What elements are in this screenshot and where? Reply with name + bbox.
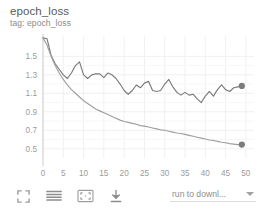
data-table-icon[interactable]: [44, 186, 64, 206]
y-tick-label: 0.9: [26, 108, 38, 117]
fullscreen-icon[interactable]: [13, 186, 33, 206]
line-chart-svg[interactable]: 0.50.70.91.11.31.5 05101520253035404550: [0, 30, 264, 182]
x-tick-label: 5: [61, 169, 66, 178]
x-tick-label: 20: [120, 169, 130, 178]
scalar-chart-card: epoch_loss tag: epoch_loss 0.50.70.91.11…: [0, 0, 264, 220]
x-tick-label: 10: [79, 169, 89, 178]
y-tick-label: 1.5: [26, 52, 38, 61]
x-axis-tick-labels: 05101520253035404550: [41, 169, 251, 178]
y-tick-label: 0.5: [26, 145, 38, 154]
x-tick-label: 40: [201, 169, 211, 178]
chart-gridlines: [43, 36, 254, 158]
chart-end-markers: [239, 83, 245, 148]
card-subtitle-tag: tag: epoch_loss: [10, 18, 250, 29]
run-download-select-value: run to downl...: [172, 189, 226, 199]
chart-toolbar: run to downl...: [0, 183, 264, 220]
x-tick-label: 45: [221, 169, 231, 178]
x-tick-label: 35: [180, 169, 190, 178]
y-tick-label: 0.7: [26, 126, 38, 135]
download-icon[interactable]: [106, 186, 126, 206]
y-tick-label: 1.1: [26, 89, 38, 98]
series-line-train: [43, 38, 242, 145]
run-download-select[interactable]: run to downl...: [170, 189, 256, 202]
reset-zoom-icon[interactable]: [75, 186, 95, 206]
chart-tool-icon-group: [13, 186, 126, 206]
x-tick-label: 50: [241, 169, 251, 178]
page-title: epoch_loss: [10, 5, 250, 18]
y-axis-tick-labels: 0.50.70.91.11.31.5: [26, 52, 38, 153]
x-tick-label: 15: [99, 169, 109, 178]
x-tick-label: 25: [140, 169, 150, 178]
x-tick-label: 30: [160, 169, 170, 178]
chart-series-lines: [43, 38, 242, 145]
run-download-select-row[interactable]: run to downl...: [170, 189, 256, 202]
chevron-down-icon[interactable]: [246, 192, 254, 196]
y-tick-label: 1.3: [26, 71, 38, 80]
series-end-marker-validation: [239, 83, 245, 89]
series-end-marker-train: [239, 142, 245, 148]
x-tick-label: 0: [41, 169, 46, 178]
chart-plot-area[interactable]: 0.50.70.91.11.31.5 05101520253035404550: [0, 30, 264, 182]
card-header: epoch_loss tag: epoch_loss: [10, 5, 250, 29]
